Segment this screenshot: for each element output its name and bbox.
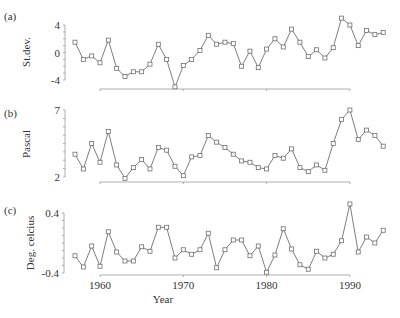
series-line xyxy=(75,110,383,178)
panel-c: (c)Deg. celcius0.4-0.41960197019801990Ye… xyxy=(4,202,385,305)
data-point-marker xyxy=(81,57,85,61)
y-tick-label: -0.4 xyxy=(42,267,60,279)
data-point-marker xyxy=(73,254,77,258)
data-point-marker xyxy=(90,54,94,58)
data-point-marker xyxy=(223,248,227,252)
data-point-marker xyxy=(215,42,219,46)
x-tick-label: 1960 xyxy=(89,279,112,291)
data-point-marker xyxy=(248,254,252,258)
panel-label: (c) xyxy=(4,204,17,217)
data-point-marker xyxy=(340,239,344,243)
y-tick-label: -4 xyxy=(51,74,61,86)
data-point-marker xyxy=(115,66,119,70)
data-point-marker xyxy=(331,142,335,146)
data-point-marker xyxy=(290,147,294,151)
data-point-marker xyxy=(356,250,360,254)
data-point-marker xyxy=(140,70,144,74)
data-point-marker xyxy=(298,263,302,267)
data-point-marker xyxy=(281,227,285,231)
data-point-marker xyxy=(115,250,119,254)
panel-label: (a) xyxy=(4,10,17,23)
data-point-marker xyxy=(106,129,110,133)
y-tick-label: 4 xyxy=(55,19,61,31)
data-point-marker xyxy=(173,85,177,89)
data-point-marker xyxy=(198,154,202,158)
data-point-marker xyxy=(373,133,377,137)
data-point-marker xyxy=(373,241,377,245)
data-point-marker xyxy=(223,146,227,150)
data-point-marker xyxy=(315,163,319,167)
data-point-marker xyxy=(331,252,335,256)
data-point-marker xyxy=(365,29,369,33)
data-point-marker xyxy=(190,57,194,61)
data-point-marker xyxy=(381,228,385,232)
data-point-marker xyxy=(265,47,269,51)
data-point-marker xyxy=(231,238,235,242)
data-point-marker xyxy=(90,244,94,248)
data-point-marker xyxy=(248,160,252,164)
panel-b: (b)Pascal72 xyxy=(4,104,385,184)
data-point-marker xyxy=(356,137,360,141)
data-point-marker xyxy=(240,159,244,163)
data-point-marker xyxy=(331,46,335,50)
data-point-marker xyxy=(306,55,310,59)
data-point-marker xyxy=(323,256,327,260)
x-axis-label: Year xyxy=(153,293,174,305)
data-point-marker xyxy=(265,270,269,274)
data-point-marker xyxy=(198,248,202,252)
data-point-marker xyxy=(365,235,369,239)
panel-label: (b) xyxy=(4,107,17,120)
y-tick-label: 0.4 xyxy=(45,207,59,219)
series-line xyxy=(75,18,383,87)
data-point-marker xyxy=(81,167,85,171)
three-panel-time-series-chart: (a)St.dev.40-4(b)Pascal72(c)Deg. celcius… xyxy=(0,0,400,318)
data-point-marker xyxy=(373,33,377,37)
data-point-marker xyxy=(131,166,135,170)
data-point-marker xyxy=(198,48,202,52)
data-point-marker xyxy=(206,33,210,37)
data-point-marker xyxy=(256,66,260,70)
data-point-marker xyxy=(256,244,260,248)
data-point-marker xyxy=(140,158,144,162)
data-point-marker xyxy=(273,37,277,41)
data-point-marker xyxy=(231,152,235,156)
data-point-marker xyxy=(148,62,152,66)
data-point-marker xyxy=(340,117,344,121)
data-point-marker xyxy=(173,164,177,168)
y-tick-label: 0 xyxy=(55,47,61,59)
data-point-marker xyxy=(381,31,385,35)
data-point-marker xyxy=(173,256,177,260)
data-point-marker xyxy=(181,64,185,68)
figure: (a)St.dev.40-4(b)Pascal72(c)Deg. celcius… xyxy=(0,0,400,318)
y-axis-label: Pascal xyxy=(20,130,32,158)
data-point-marker xyxy=(140,245,144,249)
data-point-marker xyxy=(348,23,352,27)
data-point-marker xyxy=(315,249,319,253)
data-point-marker xyxy=(306,267,310,271)
data-point-marker xyxy=(190,155,194,159)
y-axis-label: St.dev. xyxy=(20,37,32,67)
x-tick-label: 1970 xyxy=(172,279,195,291)
data-point-marker xyxy=(381,144,385,148)
data-point-marker xyxy=(340,16,344,20)
data-point-marker xyxy=(248,49,252,53)
data-point-marker xyxy=(90,142,94,146)
data-point-marker xyxy=(98,264,102,268)
data-point-marker xyxy=(106,230,110,234)
data-point-marker xyxy=(98,160,102,164)
data-point-marker xyxy=(131,70,135,74)
data-point-marker xyxy=(206,133,210,137)
data-point-marker xyxy=(281,45,285,49)
data-point-marker xyxy=(365,128,369,132)
data-point-marker xyxy=(123,75,127,79)
data-point-marker xyxy=(298,40,302,44)
data-point-marker xyxy=(348,108,352,112)
data-point-marker xyxy=(298,166,302,170)
data-point-marker xyxy=(148,167,152,171)
data-point-marker xyxy=(106,38,110,42)
x-tick-label: 1990 xyxy=(339,279,362,291)
data-point-marker xyxy=(73,152,77,156)
data-point-marker xyxy=(81,265,85,269)
data-point-marker xyxy=(165,225,169,229)
data-point-marker xyxy=(306,170,310,174)
